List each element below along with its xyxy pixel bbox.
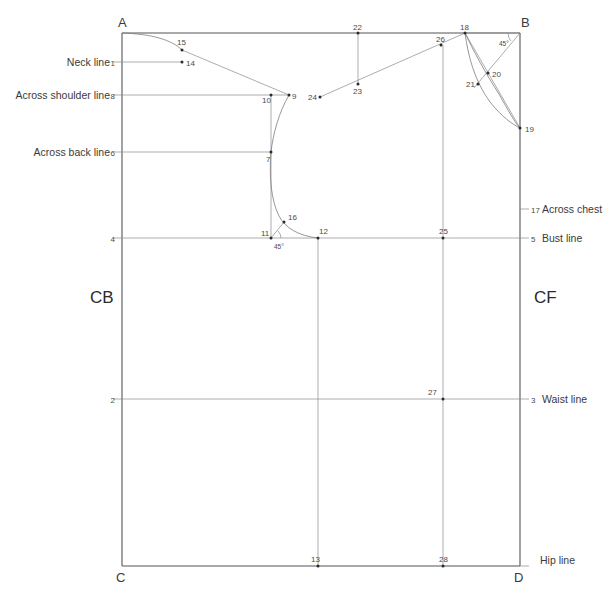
vertical-guides — [271, 33, 443, 566]
point-label-7: 7 — [266, 155, 271, 164]
point-marker-16 — [283, 221, 286, 224]
left-line-labels: Neck line 1 Across shoulder line 8 Acros… — [15, 56, 115, 405]
edge-number-6: 6 — [111, 149, 116, 158]
label-across-back-line: Across back line — [34, 146, 111, 158]
arc-45-at-11 — [278, 231, 281, 238]
curve-back-neck — [122, 33, 182, 50]
label-bust-line: Bust line — [542, 232, 582, 244]
point-label-24: 24 — [308, 93, 317, 102]
point-marker-12 — [317, 237, 320, 240]
point-label-27: 27 — [428, 388, 437, 397]
center-back-label: CB — [90, 288, 114, 307]
point-label-21: 21 — [466, 80, 475, 89]
angle-label-45-at-B: 45° — [499, 40, 509, 47]
point-marker-24 — [319, 96, 322, 99]
point-label-16: 16 — [288, 213, 297, 222]
label-hip-line: Hip line — [540, 554, 575, 566]
label-across-shoulder-line: Across shoulder line — [15, 89, 110, 101]
point-label-11: 11 — [261, 229, 270, 238]
line-shoulder-slope-back — [182, 50, 289, 95]
point-label-23: 23 — [353, 87, 362, 96]
point-label-14: 14 — [186, 59, 195, 68]
corner-label-D: D — [514, 570, 523, 585]
front-shoulder-construction — [320, 33, 520, 128]
edge-number-5: 5 — [531, 235, 536, 244]
point-label-25: 25 — [439, 227, 448, 236]
angle-label-45-at-11: 45° — [274, 243, 284, 250]
point-marker-13 — [317, 565, 320, 568]
point-marker-11 — [270, 237, 273, 240]
center-axis-labels: CB CF — [90, 288, 557, 307]
point-label-18: 18 — [460, 23, 469, 32]
point-marker-21 — [477, 83, 480, 86]
corner-label-C: C — [116, 570, 125, 585]
point-marker-9 — [288, 94, 291, 97]
point-label-22: 22 — [353, 23, 362, 32]
label-across-chest: Across chest — [542, 203, 602, 215]
edge-number-3: 3 — [531, 396, 536, 405]
outer-frame — [122, 33, 520, 566]
edge-number-8: 8 — [111, 92, 116, 101]
edge-number-17: 17 — [531, 206, 540, 215]
point-marker-14 — [181, 61, 184, 64]
horizontal-guides — [113, 62, 529, 566]
point-label-26: 26 — [436, 35, 445, 44]
edge-number-4: 4 — [111, 235, 116, 244]
edge-number-2: 2 — [111, 396, 116, 405]
pattern-diagram: 14 15 9 10 7 16 11 12 13 22 23 24 26 18 … — [0, 0, 613, 601]
point-number-labels: 14 15 9 10 7 16 11 12 13 22 23 24 26 18 … — [177, 23, 534, 564]
label-waist-line: Waist line — [542, 393, 587, 405]
back-shoulder-construction — [122, 33, 289, 95]
point-marker-27 — [442, 398, 445, 401]
pattern-canvas: 14 15 9 10 7 16 11 12 13 22 23 24 26 18 … — [0, 0, 613, 601]
center-front-label: CF — [534, 288, 557, 307]
point-label-12: 12 — [319, 227, 328, 236]
point-marker-20 — [487, 72, 490, 75]
point-label-28: 28 — [439, 555, 448, 564]
point-label-19: 19 — [525, 125, 534, 134]
point-markers — [181, 32, 522, 568]
point-label-9: 9 — [292, 92, 297, 101]
corner-label-A: A — [118, 15, 127, 30]
corner-labels: A B C D — [116, 15, 530, 585]
point-label-20: 20 — [492, 70, 501, 79]
point-marker-28 — [442, 565, 445, 568]
point-marker-7 — [270, 151, 273, 154]
point-label-15: 15 — [177, 38, 186, 47]
point-label-10: 10 — [262, 96, 271, 105]
label-neck-line: Neck line — [67, 56, 110, 68]
corner-label-B: B — [521, 15, 530, 30]
edge-number-1: 1 — [111, 59, 116, 68]
point-label-13: 13 — [311, 555, 320, 564]
line-45-bisector-11 — [271, 222, 284, 238]
point-marker-25 — [442, 237, 445, 240]
point-marker-23 — [357, 83, 360, 86]
point-marker-19 — [519, 127, 522, 130]
right-line-labels: 17 Across chest 5 Bust line 3 Waist line… — [531, 203, 602, 566]
point-marker-15 — [181, 49, 184, 52]
